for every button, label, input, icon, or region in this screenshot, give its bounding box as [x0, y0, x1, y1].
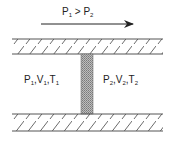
left-t-sub: 1 [56, 80, 59, 86]
left-v-sub: 1 [43, 80, 46, 86]
bottom-wall [12, 114, 163, 131]
porous-plug [81, 54, 93, 114]
right-p: P [103, 74, 110, 85]
top-wall [12, 39, 163, 54]
left-p: P [24, 74, 31, 85]
p2-subscript: 2 [90, 12, 93, 18]
greater-than: > [72, 6, 83, 17]
left-state-label: P1,V1,T1 [24, 75, 59, 86]
right-t-sub: 2 [135, 80, 138, 86]
flow-condition-label: P1 > P2 [62, 7, 93, 18]
right-p-sub: 2 [110, 80, 113, 86]
p1-symbol: P [62, 6, 69, 17]
left-p-sub: 1 [31, 80, 34, 86]
right-v-sub: 2 [122, 80, 125, 86]
diagram-canvas [0, 0, 174, 141]
right-state-label: P2,V2,T2 [103, 75, 138, 86]
